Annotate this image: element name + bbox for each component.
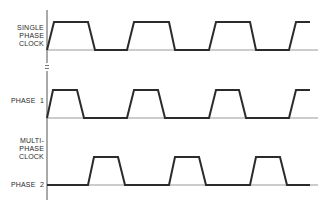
phase-1-waveform	[47, 90, 310, 118]
label-line: PHASE 2	[11, 181, 44, 189]
time-axis	[45, 10, 49, 200]
phase-1-label: PHASE 1	[11, 97, 44, 105]
label-line: PHASE	[17, 32, 44, 40]
single-phase-clock-waveform	[47, 22, 310, 50]
label-line: PHASE 1	[11, 97, 44, 105]
label-line: MULTI-	[19, 137, 44, 145]
single-phase-clock-label: SINGLE PHASE CLOCK	[17, 24, 44, 48]
waveforms	[47, 22, 310, 185]
phase-2-waveform	[47, 157, 310, 185]
timing-diagram: SINGLE PHASE CLOCK PHASE 1 MULTI- PHASE …	[0, 0, 334, 214]
label-line: CLOCK	[19, 153, 44, 161]
waveform-canvas	[0, 0, 334, 214]
multi-phase-clock-label: MULTI- PHASE CLOCK	[19, 137, 44, 161]
phase-2-label: PHASE 2	[11, 181, 44, 189]
label-line: SINGLE	[17, 24, 44, 32]
label-line: PHASE	[19, 145, 44, 153]
label-line: CLOCK	[17, 40, 44, 48]
